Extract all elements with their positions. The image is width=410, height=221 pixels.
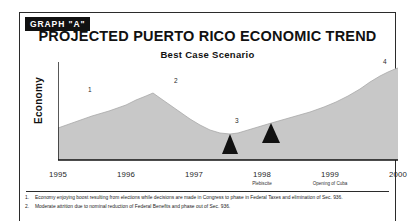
x-tick-sublabel: Opening of Cuba [295, 181, 365, 186]
x-tick-1995: 1995 [23, 170, 93, 181]
x-tick-2000: 2000 [363, 170, 410, 181]
footnote-text: Moderate attrition due to nominal reduct… [35, 204, 230, 209]
x-tick-year: 1997 [159, 170, 229, 179]
annotation-1: 1 [88, 87, 92, 94]
footnote-text: Economy enjoying boost resulting from el… [35, 195, 343, 200]
footnote-item: 2. Moderate attrition due to nominal red… [24, 203, 394, 211]
x-tick-year: 1998 [227, 170, 297, 179]
x-tick-year: 1999 [295, 170, 365, 179]
y-axis-label: Economy [33, 56, 44, 146]
x-tick-year: 1996 [91, 170, 161, 179]
footnote-number: 1. [25, 194, 29, 202]
annotation-4: 4 [383, 59, 387, 66]
x-tick-1996: 1996 [91, 170, 161, 181]
x-tick-1999: 1999 Opening of Cuba [295, 170, 365, 186]
footnote-item: 1. Economy enjoying boost resulting from… [24, 194, 394, 202]
chart-subtitle: Best Case Scenario [19, 49, 396, 60]
annotation-2: 2 [174, 78, 178, 85]
x-tick-1997: 1997 [159, 170, 229, 181]
chart-plot-area: 1 2 3 4 [58, 62, 398, 168]
footnotes-list: 1. Economy enjoying boost resulting from… [24, 194, 394, 212]
footnote-number: 2. [25, 203, 29, 211]
annotation-3: 3 [235, 118, 239, 125]
graph-page: GRAPH "A" PROJECTED PUERTO RICO ECONOMIC… [0, 0, 410, 221]
x-tick-sublabel: Plebiscite [227, 181, 297, 186]
footnote-divider [26, 191, 389, 192]
x-tick-year: 2000 [363, 170, 410, 179]
x-tick-year: 1995 [23, 170, 93, 179]
area-chart-svg [58, 62, 398, 168]
x-tick-1998: 1998 Plebiscite [227, 170, 297, 186]
page-title: PROJECTED PUERTO RICO ECONOMIC TREND [19, 28, 396, 44]
